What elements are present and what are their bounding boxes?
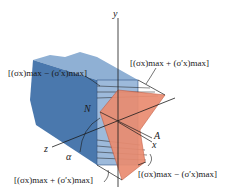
leader-top-right <box>146 68 156 84</box>
label-top-left: [(σx)max − (σ'x)max] <box>8 68 87 78</box>
alpha-label: α <box>66 151 72 162</box>
leader-bottom-right <box>148 154 152 166</box>
label-bottom-right: [(σx)max − (σ'x)max] <box>138 169 217 179</box>
point-a-label: A <box>153 130 161 141</box>
beam-diagram: y z x N A α [(σx)max − (σ'x)max] [(σx)ma… <box>0 0 233 196</box>
label-top-right: [(σx)max + (σ'x)max] <box>130 58 209 68</box>
label-bottom-left: [(σx)max + (σ'x)max] <box>14 175 93 185</box>
y-axis-label: y <box>112 8 118 19</box>
point-n-label: N <box>83 103 92 114</box>
z-axis-label: z <box>43 143 48 154</box>
